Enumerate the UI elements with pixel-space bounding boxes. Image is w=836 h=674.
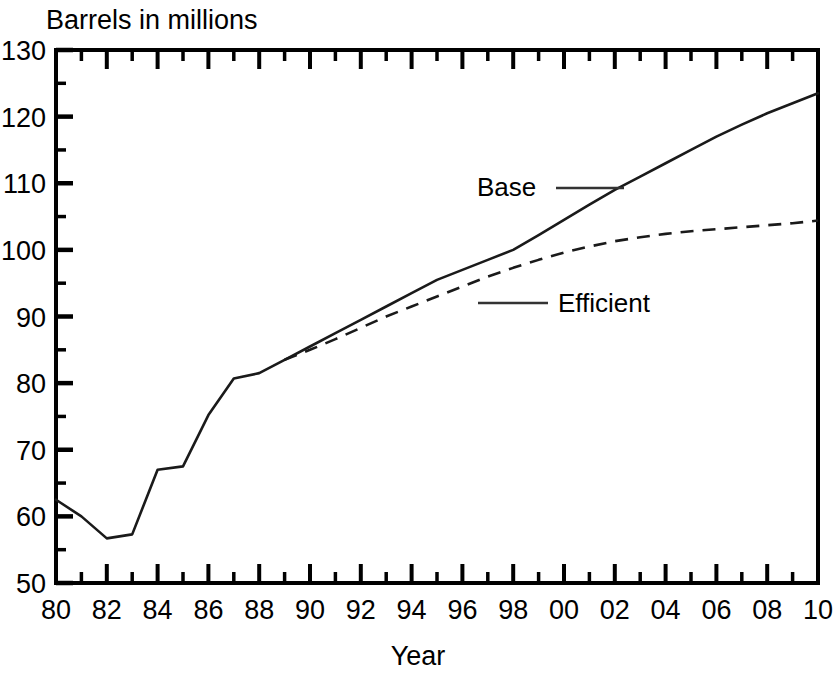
x-tick-label: 90 xyxy=(295,595,325,625)
axis-lines xyxy=(56,50,818,583)
plot-axes xyxy=(56,50,818,583)
y-tick-label: 100 xyxy=(1,236,46,266)
y-tick-label: 120 xyxy=(1,103,46,133)
series-line-efficient xyxy=(285,221,818,360)
x-tick-label: 98 xyxy=(498,595,528,625)
x-tick-label: 92 xyxy=(346,595,376,625)
line-chart: Barrels in millions 50607080901001101201… xyxy=(0,0,836,674)
y-tick-label: 130 xyxy=(1,36,46,66)
annotation-efficient: Efficient xyxy=(478,288,651,318)
x-tick-label: 94 xyxy=(397,595,427,625)
x-tick-label: 06 xyxy=(701,595,731,625)
y-axis-tick-labels: 5060708090100110120130 xyxy=(1,36,46,599)
x-tick-label: 82 xyxy=(92,595,122,625)
chart-page: Barrels in millions 50607080901001101201… xyxy=(0,0,836,674)
y-tick-label: 80 xyxy=(16,369,46,399)
data-series-layer xyxy=(56,93,818,538)
y-tick-label: 90 xyxy=(16,303,46,333)
x-tick-label: 02 xyxy=(600,595,630,625)
x-tick-label: 04 xyxy=(651,595,681,625)
y-tick-label: 60 xyxy=(16,502,46,532)
y-tick-label: 110 xyxy=(3,169,46,199)
x-tick-label: 88 xyxy=(244,595,274,625)
x-axis-ticks-bottom xyxy=(56,564,818,583)
x-axis-tick-labels: 80828486889092949698000204060810 xyxy=(41,595,833,625)
y-axis-ticks xyxy=(56,50,73,583)
series-label-base: Base xyxy=(477,172,536,202)
x-tick-label: 96 xyxy=(447,595,477,625)
series-label-efficient: Efficient xyxy=(558,288,651,318)
x-axis-title: Year xyxy=(391,641,446,671)
x-tick-label: 86 xyxy=(193,595,223,625)
x-tick-label: 84 xyxy=(143,595,173,625)
x-axis-ticks-top xyxy=(56,50,818,69)
x-tick-label: 10 xyxy=(803,595,833,625)
x-tick-label: 80 xyxy=(41,595,71,625)
chart-title-group: Barrels in millions xyxy=(46,5,258,35)
chart-title: Barrels in millions xyxy=(46,5,258,35)
series-line-base xyxy=(56,93,818,538)
y-tick-label: 70 xyxy=(16,436,46,466)
x-tick-label: 00 xyxy=(549,595,579,625)
x-tick-label: 08 xyxy=(752,595,782,625)
